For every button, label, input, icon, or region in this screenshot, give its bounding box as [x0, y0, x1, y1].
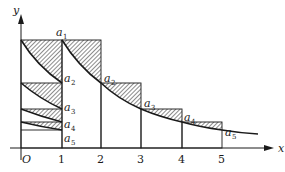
- svg-text:a: a: [64, 72, 71, 85]
- svg-text:a: a: [225, 126, 232, 139]
- svg-text:4: 4: [191, 118, 196, 126]
- svg-text:a: a: [104, 72, 111, 85]
- svg-text:1: 1: [63, 33, 67, 41]
- right-hatched-regions: [62, 40, 222, 130]
- diagram-canvas: x y O 1 2 3 4 5 a 1 a 2 a 3 a 4 a 5 a 2 …: [0, 0, 285, 172]
- x-axis-label: x: [278, 142, 285, 155]
- left-label-a3: a 3: [64, 101, 75, 116]
- sequence-label-a5: a 5: [225, 126, 236, 141]
- svg-text:3: 3: [151, 104, 155, 112]
- x-tick-2: 2: [97, 153, 104, 166]
- svg-text:a: a: [184, 111, 191, 124]
- svg-text:2: 2: [71, 79, 75, 87]
- svg-text:3: 3: [71, 108, 75, 116]
- sequence-label-a2: a 2: [104, 72, 115, 87]
- left-label-a5: a 5: [64, 132, 75, 147]
- y-axis-label: y: [12, 4, 20, 17]
- svg-text:5: 5: [232, 133, 236, 141]
- x-tick-5: 5: [218, 153, 225, 166]
- x-axis-arrow-icon: [264, 145, 274, 151]
- svg-text:4: 4: [71, 125, 76, 133]
- svg-text:a: a: [64, 101, 71, 114]
- sequence-label-a4: a 4: [184, 111, 196, 126]
- sequence-label-a1: a 1: [56, 26, 67, 41]
- svg-text:a: a: [64, 118, 71, 131]
- svg-text:a: a: [56, 26, 63, 39]
- x-tick-4: 4: [178, 153, 185, 166]
- left-label-a4: a 4: [64, 118, 76, 133]
- svg-text:2: 2: [111, 79, 115, 87]
- x-tick-3: 3: [137, 153, 144, 166]
- sequence-label-a3: a 3: [144, 97, 155, 112]
- origin-label: O: [22, 153, 31, 166]
- svg-text:a: a: [64, 132, 71, 145]
- svg-text:a: a: [144, 97, 151, 110]
- svg-text:5: 5: [71, 139, 75, 147]
- left-label-a2: a 2: [64, 72, 75, 87]
- x-tick-1: 1: [58, 153, 65, 166]
